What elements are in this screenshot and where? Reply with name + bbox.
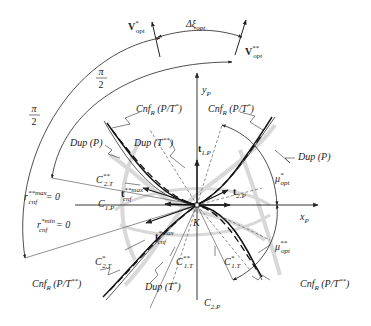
outer-arc (23, 38, 160, 258)
label-origin-k: K (192, 217, 201, 228)
label-mu-opt-double-star: μ**opt (274, 239, 291, 255)
label-t-cnf-star-max: t*maxcnf (155, 229, 174, 246)
inner-arc (52, 62, 232, 178)
label-delta-xi: Δξopt (185, 18, 206, 32)
label-c1p: C1.P (98, 198, 115, 212)
label-c2t-star: C*2.T (95, 254, 112, 270)
label-dup-p-left: Dup (P) (69, 137, 103, 149)
label-cnf-bottom-right: CnfR (P/T**) (300, 277, 350, 292)
origin-point (195, 203, 199, 207)
label-dup-t-double-star: Dup (T**) (133, 136, 174, 149)
label-v-opt-star: V*opt (128, 19, 145, 35)
label-cnf-top-right: CnfR (P/T*) (208, 102, 255, 117)
label-r-cnf-min: r*mincnf = 0 (37, 217, 70, 234)
svg-text:2: 2 (32, 116, 37, 127)
label-cnf-top-left: CnfR (P/T*) (136, 102, 183, 117)
label-t2p: t2.P (233, 186, 247, 200)
label-dup-t-star: Dup (T*) (144, 280, 181, 293)
label-y-axis: yP (201, 84, 211, 98)
label-c2t-double-star: C**2.T (96, 172, 114, 188)
label-x-axis: xP (299, 211, 309, 225)
label-dup-p-right: Dup (P) (297, 151, 331, 163)
label-cnf-bottom-left: CnfR (P/T**) (32, 277, 82, 292)
mu-star-arc (222, 125, 277, 205)
labels: V*opt Δξopt V**opt π 2 π 2 yP xP CnfR (P… (24, 18, 350, 311)
svg-text:2: 2 (99, 79, 104, 90)
label-r-cnf-max: r**maxcnf = 0 (24, 189, 60, 206)
diagram-canvas: V*opt Δξopt V**opt π 2 π 2 yP xP CnfR (P… (0, 0, 371, 326)
label-c2p: C2.P (204, 297, 221, 311)
label-mu-opt-star: μ*opt (274, 171, 291, 187)
label-t1p: t1.P (198, 143, 212, 157)
label-pi-half-inner: π (98, 66, 104, 77)
angle-arcs (23, 30, 278, 280)
label-v-opt-double-star: V**opt (245, 44, 262, 60)
label-c1t-double-star: C**1.T (176, 254, 194, 270)
label-pi-half-outer: π (31, 103, 37, 114)
